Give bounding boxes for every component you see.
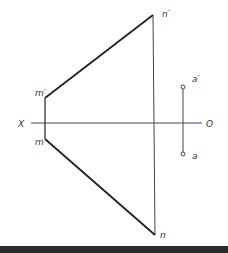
bottom-border-bar (0, 246, 228, 253)
line-m-prime-n-prime (45, 15, 153, 98)
label-a-prime: a′ (192, 74, 200, 84)
label-o: O (206, 119, 213, 129)
label-n: n (160, 230, 166, 240)
label-m-prime: m′ (35, 88, 46, 98)
label-n-prime: n′ (162, 9, 170, 19)
label-x: X (17, 119, 25, 129)
label-a: a (192, 151, 198, 161)
projection-diagram: X O n′ m′ m n a′ a (0, 0, 228, 253)
point-a (181, 152, 185, 156)
projector-n (153, 15, 155, 235)
label-m: m (35, 137, 44, 147)
line-m-n (45, 139, 155, 235)
point-a-prime (181, 85, 185, 89)
